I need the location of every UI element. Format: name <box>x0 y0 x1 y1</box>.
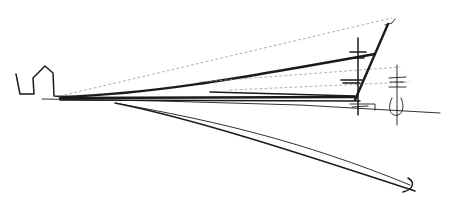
curved-ground-line-2 <box>120 104 410 185</box>
mast-top <box>385 19 395 25</box>
roof-line-mid2 <box>210 92 355 96</box>
guide-line-2 <box>200 67 400 82</box>
guide-line-3 <box>230 82 410 90</box>
sketch-drawing <box>0 0 470 216</box>
post-loop <box>390 98 403 115</box>
roof-line-mid <box>60 97 355 98</box>
guide-line-1 <box>60 18 392 96</box>
inclined-mast <box>355 24 388 100</box>
roof-line-lower <box>60 100 360 101</box>
curved-ground-line <box>115 103 415 191</box>
roof-line-upper <box>60 54 375 97</box>
post-tick-2 <box>389 77 406 87</box>
building-outline <box>16 66 70 97</box>
